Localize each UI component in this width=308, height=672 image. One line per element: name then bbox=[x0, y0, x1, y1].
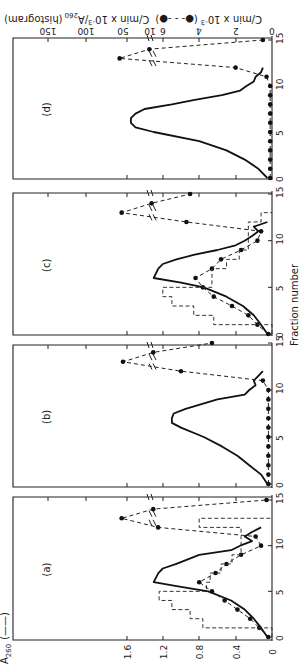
cpm-point bbox=[261, 38, 266, 43]
cpm-point bbox=[188, 192, 193, 197]
cpm-point bbox=[179, 369, 184, 374]
panel-label: (a) bbox=[41, 562, 52, 576]
cpm-point bbox=[261, 378, 266, 383]
cpm-point bbox=[264, 75, 269, 80]
cpm-point bbox=[210, 589, 215, 594]
cpm-point bbox=[211, 294, 216, 299]
cpm-curve bbox=[122, 500, 269, 637]
cpm-point bbox=[264, 498, 269, 503]
top-tick-label: 100 bbox=[77, 26, 94, 36]
cpm-point bbox=[266, 472, 271, 477]
cpm-point bbox=[268, 93, 273, 98]
cpm-point bbox=[266, 454, 271, 459]
top-tick-label: 50 bbox=[117, 26, 129, 36]
cpm-point bbox=[219, 257, 224, 262]
cpm-point bbox=[210, 341, 215, 346]
cpm-point bbox=[266, 635, 271, 640]
svg-text:C/min x 10-3(●- - -●)C/min x 1: C/min x 10-3(●- - -●)C/min x 10-3/A260(h… bbox=[4, 11, 262, 26]
cpm-point bbox=[119, 210, 124, 215]
panel-label: (b) bbox=[41, 410, 52, 424]
x-tick-label: 15 bbox=[275, 187, 285, 198]
x-tick-label: 15 bbox=[275, 336, 285, 347]
cpm-curve bbox=[122, 194, 269, 334]
bottom-axis-ticks: 00.40.81.21.6 bbox=[123, 645, 278, 660]
a260-tick-label: 0 bbox=[268, 649, 278, 655]
x-tick-label: 10 bbox=[275, 382, 285, 394]
cpm-point bbox=[266, 416, 271, 421]
a260-tick-label: 0.8 bbox=[195, 645, 205, 660]
x-tick-label: 0 bbox=[275, 635, 285, 641]
x-tick-label: 0 bbox=[275, 176, 285, 182]
cpm-point bbox=[268, 148, 273, 153]
panel-b: 051015(b) bbox=[13, 336, 285, 488]
cpm-point bbox=[266, 332, 271, 337]
cpm-point bbox=[253, 534, 258, 539]
cpm-point bbox=[184, 220, 189, 225]
a260-tick-label: 0.4 bbox=[232, 645, 242, 660]
x-tick-label: 10 bbox=[275, 78, 285, 90]
a260-legend: (——) bbox=[0, 612, 10, 640]
cpm-point bbox=[235, 607, 240, 612]
x-tick-label: 5 bbox=[275, 130, 285, 136]
panel-c: 051015(c) bbox=[13, 187, 285, 338]
panel-d: 051015(d) bbox=[13, 33, 285, 182]
x-tick-label: 5 bbox=[275, 286, 285, 292]
x-axis-label: Fraction number bbox=[289, 263, 300, 346]
cpm-point bbox=[266, 444, 271, 449]
top-tick-label: 150 bbox=[39, 26, 56, 36]
x-tick-label: 10 bbox=[275, 233, 285, 245]
a260-curve bbox=[131, 68, 268, 178]
x-tick-label: 5 bbox=[275, 435, 285, 441]
top-tick-label: 10 bbox=[144, 26, 156, 36]
cpm-point bbox=[233, 65, 238, 70]
cpm-point bbox=[156, 525, 161, 530]
hist-legend: (histogram) bbox=[4, 14, 63, 25]
cpm-point bbox=[266, 388, 271, 393]
cpm-point bbox=[266, 482, 271, 487]
cpm-point bbox=[268, 111, 273, 116]
top-axis-ticks: 02461050100150 bbox=[39, 26, 275, 36]
cpm-point bbox=[248, 616, 253, 621]
top-tick-label: 6 bbox=[160, 26, 166, 36]
cpm-point bbox=[266, 435, 271, 440]
panel-label: (d) bbox=[41, 102, 52, 116]
cpm-point bbox=[193, 276, 198, 281]
hist-unit-label: C/min x 10 bbox=[95, 14, 149, 25]
cpm-point bbox=[230, 304, 235, 309]
histogram bbox=[163, 213, 272, 334]
x-tick-label: 15 bbox=[275, 33, 285, 44]
cpm-point bbox=[268, 176, 273, 181]
cpm-point bbox=[119, 516, 124, 521]
svg-text:Fraction number: Fraction number bbox=[289, 263, 300, 346]
x-tick-label: 15 bbox=[275, 493, 285, 504]
dots-unit-label: C/min x 10 bbox=[208, 14, 262, 25]
a260-axis-label: A260(——) bbox=[0, 612, 13, 664]
svg-text:A260(——): A260(——) bbox=[0, 612, 13, 664]
cpm-point bbox=[268, 139, 273, 144]
x-tick-label: 5 bbox=[275, 590, 285, 596]
cpm-point bbox=[266, 425, 271, 430]
a260-curve bbox=[172, 371, 268, 484]
a260-tick-label: 1.6 bbox=[123, 645, 133, 660]
dots-legend: (●- - -●) bbox=[155, 14, 198, 25]
panel-a: 051015(a) bbox=[13, 493, 285, 641]
cpm-point bbox=[117, 56, 122, 61]
top-tick-label: 0 bbox=[269, 26, 275, 36]
cpm-point bbox=[268, 130, 273, 135]
cpm-point bbox=[266, 463, 271, 468]
panel-label: (c) bbox=[41, 259, 52, 272]
right-axis-label: C/min x 10-3(●- - -●)C/min x 10-3/A260(h… bbox=[4, 11, 262, 26]
figure: C/min x 10-3(●- - -●)C/min x 10-3/A260(h… bbox=[0, 0, 308, 672]
cpm-point bbox=[121, 360, 126, 365]
cpm-point bbox=[197, 580, 202, 585]
x-tick-label: 0 bbox=[275, 482, 285, 488]
top-tick-label: 2 bbox=[233, 26, 239, 36]
cpm-point bbox=[222, 598, 227, 603]
x-tick-label: 10 bbox=[275, 538, 285, 550]
cpm-point bbox=[246, 313, 251, 318]
cpm-point bbox=[266, 407, 271, 412]
cpm-point bbox=[266, 397, 271, 402]
cpm-point bbox=[268, 102, 273, 107]
a260-tick-label: 1.2 bbox=[159, 645, 169, 659]
cpm-point bbox=[259, 229, 264, 234]
